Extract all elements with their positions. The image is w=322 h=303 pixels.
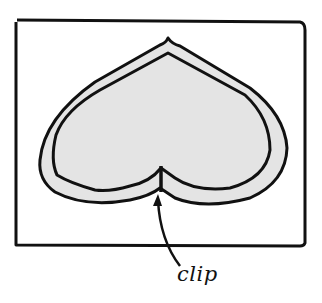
arrow-head-icon xyxy=(153,194,162,206)
diagram-canvas xyxy=(0,0,322,303)
pointer-arrow xyxy=(158,200,180,266)
clip-label: clip xyxy=(177,262,218,286)
